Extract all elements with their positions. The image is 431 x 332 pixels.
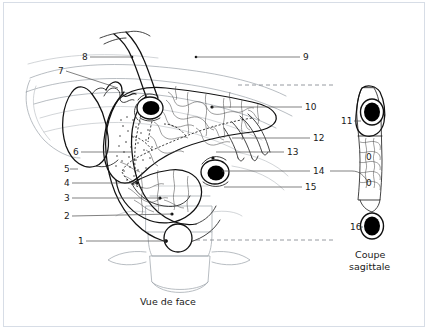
pancreas-head-stipple [115, 116, 152, 180]
label-15: 15 [305, 182, 316, 192]
caption-front-view: Vue de face [140, 296, 196, 307]
caption-sagittal-line1: Coupe [355, 249, 385, 260]
label-5: 5 [64, 164, 70, 174]
aorta-cut [164, 224, 192, 252]
sagittal-lobule-mark-2: 0 [366, 178, 372, 188]
vessel-lower-cut [201, 156, 229, 186]
pancreatic-duct [122, 118, 252, 172]
splenic-vessels [224, 114, 270, 161]
leader-7 [66, 71, 118, 88]
vessel-upper-cut [134, 94, 163, 121]
label-9: 9 [303, 52, 309, 62]
label-6: 6 [73, 147, 79, 157]
sagittal-lobule-mark-1: 0 [366, 152, 372, 162]
label-1: 1 [78, 236, 84, 246]
sagittal-section: 0 0 [356, 86, 385, 239]
figure-page: 0 0 8 7 6 5 4 3 2 1 [0, 0, 431, 332]
label-13: 13 [287, 147, 298, 157]
label-14: 14 [313, 166, 325, 176]
label-11: 11 [341, 116, 352, 126]
label-12: 12 [313, 133, 324, 143]
label-4: 4 [64, 178, 70, 188]
cystic-duct [106, 82, 136, 96]
caption-sagittal-line2: sagittale [349, 261, 390, 272]
label-10: 10 [305, 102, 317, 112]
leader-2 [72, 214, 172, 216]
label-2: 2 [64, 211, 70, 221]
label-3: 3 [64, 193, 70, 203]
label-16: 16 [350, 222, 362, 232]
label-7: 7 [58, 66, 64, 76]
anatomy-diagram: 0 0 8 7 6 5 4 3 2 1 [0, 0, 431, 332]
label-8: 8 [82, 52, 88, 62]
